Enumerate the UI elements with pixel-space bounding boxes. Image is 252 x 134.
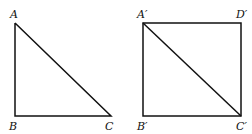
diagonal-a-c <box>143 23 241 116</box>
label-d-prime: D′ <box>235 8 248 21</box>
triangle-edges <box>15 23 111 116</box>
square-abcd-prime: A′ D′ B′ C′ <box>136 8 248 133</box>
label-b-prime: B′ <box>136 120 148 133</box>
label-c-prime: C′ <box>236 120 247 133</box>
label-c: C <box>105 120 114 133</box>
geometry-diagram: A B C A′ D′ B′ C′ <box>0 0 252 134</box>
triangle-abc: A B C <box>8 8 114 133</box>
label-b: B <box>8 120 17 133</box>
label-a-prime: A′ <box>136 8 148 21</box>
label-a: A <box>9 8 18 21</box>
